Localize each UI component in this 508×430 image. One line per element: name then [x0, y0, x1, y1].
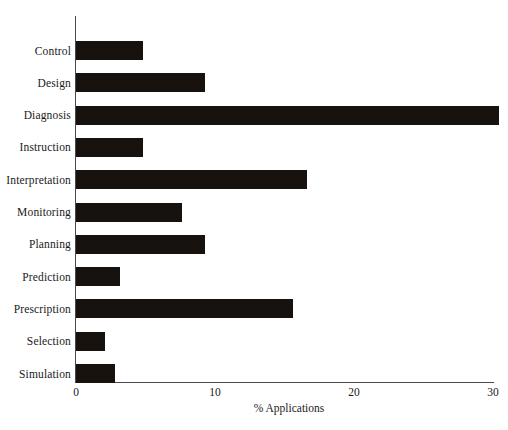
bar-category-label: Interpretation [6, 174, 71, 186]
x-tick-label: 0 [73, 386, 79, 398]
bar-row: Instruction [0, 138, 508, 157]
bar-row: Simulation [0, 364, 508, 383]
bar [76, 299, 293, 318]
bar [76, 267, 120, 286]
bar [76, 106, 499, 125]
bar-category-label: Instruction [20, 141, 71, 153]
x-tick-label: 10 [209, 386, 221, 398]
bar-row: Monitoring [0, 203, 508, 222]
bar [76, 235, 205, 254]
x-axis-title-text: % Applications [254, 402, 325, 414]
bar-row: Interpretation [0, 170, 508, 189]
bar [76, 364, 115, 383]
bar-category-label: Control [35, 45, 71, 57]
bar-category-label: Prediction [22, 271, 71, 283]
bar-category-label: Monitoring [17, 206, 71, 218]
bar-category-label: Prescription [14, 303, 71, 315]
bar [76, 203, 182, 222]
bar-chart: ControlDesignDiagnosisInstructionInterpr… [0, 0, 508, 430]
bar [76, 41, 143, 60]
x-tick-label: 30 [487, 386, 499, 398]
bar-row: Prescription [0, 299, 508, 318]
bar-row: Prediction [0, 267, 508, 286]
bar [76, 170, 307, 189]
bar-category-label: Design [38, 77, 71, 89]
bar-row: Diagnosis [0, 106, 508, 125]
x-axis-title: % Applications [0, 402, 508, 414]
bar-row: Selection [0, 332, 508, 351]
bar-row: Control [0, 41, 508, 60]
bar-row: Design [0, 73, 508, 92]
bar-category-label: Simulation [19, 368, 71, 380]
bar [76, 73, 205, 92]
x-tick-label: 20 [348, 386, 360, 398]
bar [76, 138, 143, 157]
bar-category-label: Selection [27, 335, 71, 347]
bar-category-label: Diagnosis [24, 109, 71, 121]
bar [76, 332, 105, 351]
bar-category-label: Planning [29, 238, 71, 250]
y-axis-line [75, 16, 76, 383]
bar-row: Planning [0, 235, 508, 254]
